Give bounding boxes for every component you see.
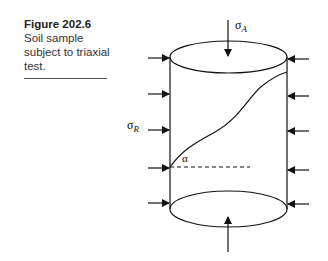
triaxial-diagram: σA σR α [0,0,328,261]
axial-stress-label: σA [235,18,247,34]
angle-alpha-label: α [182,152,188,164]
radial-stress-label: σR [127,118,139,134]
